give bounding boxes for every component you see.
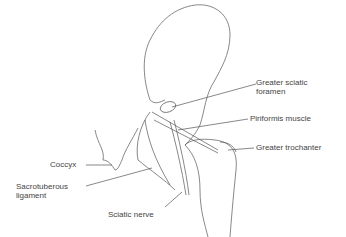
sciatic-foramen bbox=[159, 100, 177, 115]
label-line-2: ligament bbox=[16, 191, 68, 200]
piriformis-muscle bbox=[152, 112, 218, 153]
sciatic-nerve bbox=[170, 120, 189, 195]
label-line-1: Greater sciatic bbox=[256, 78, 308, 87]
sacrotuberous-ligament bbox=[137, 112, 175, 190]
label-piriformis-muscle: Piriformis muscle bbox=[250, 114, 311, 123]
femur-outline bbox=[185, 139, 236, 237]
label-sciatic-nerve: Sciatic nerve bbox=[108, 210, 154, 219]
label-sacrotuberous-ligament: Sacrotuberous ligament bbox=[16, 182, 68, 200]
label-line-1: Sacrotuberous bbox=[16, 182, 68, 191]
coccyx-outline bbox=[95, 128, 138, 170]
label-greater-trochanter: Greater trochanter bbox=[256, 143, 321, 152]
label-greater-sciatic-foramen: Greater sciatic foramen bbox=[256, 78, 308, 96]
label-line-2: foramen bbox=[256, 87, 308, 96]
label-coccyx: Coccyx bbox=[50, 160, 76, 169]
anatomy-diagram: Greater sciatic foramen Piriformis muscl… bbox=[0, 0, 346, 237]
